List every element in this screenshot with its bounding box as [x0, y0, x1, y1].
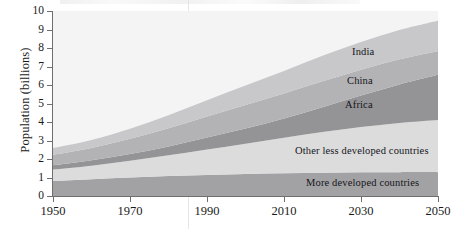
x-tick-label-text: 1950	[23, 204, 83, 218]
x-tick-label: 2030	[331, 204, 391, 218]
x-tick-mark	[207, 197, 208, 202]
population-stacked-area-chart: Population (billions) 012345678910 19501…	[0, 0, 453, 229]
y-tick-label: 6	[24, 79, 44, 90]
x-tick-mark	[53, 197, 54, 202]
y-tick-label-text: 0	[24, 190, 44, 201]
y-tick-mark	[47, 141, 52, 142]
y-tick-label-text: 7	[24, 61, 44, 72]
y-tick-label-text: 8	[24, 42, 44, 53]
plot-area	[53, 11, 438, 196]
x-tick-label: 1950	[23, 204, 83, 218]
y-tick-label-text: 6	[24, 79, 44, 90]
x-tick-label: 1990	[177, 204, 237, 218]
y-tick-label-text: 9	[24, 24, 44, 35]
series-label-africa: Africa	[345, 99, 373, 110]
y-tick-label: 1	[24, 172, 44, 183]
x-tick-mark	[284, 197, 285, 202]
y-tick-label-text: 10	[24, 5, 44, 16]
y-tick-label-text: 4	[24, 116, 44, 127]
x-tick-mark	[438, 197, 439, 202]
x-tick-mark	[130, 197, 131, 202]
y-tick-label: 8	[24, 42, 44, 53]
scan-bleed-artifact	[60, 0, 360, 4]
y-tick-mark	[47, 122, 52, 123]
y-tick-mark	[47, 178, 52, 179]
series-label-india: India	[352, 46, 374, 57]
y-tick-label: 4	[24, 116, 44, 127]
y-tick-mark	[47, 67, 52, 68]
x-tick-label-text: 1970	[100, 204, 160, 218]
y-tick-label-text: 1	[24, 172, 44, 183]
x-tick-label-text: 1990	[177, 204, 237, 218]
y-tick-label: 2	[24, 153, 44, 164]
y-tick-mark	[47, 30, 52, 31]
x-tick-label-text: 2030	[331, 204, 391, 218]
x-tick-label: 2010	[254, 204, 314, 218]
y-tick-label: 3	[24, 135, 44, 146]
y-tick-mark	[47, 11, 52, 12]
x-tick-mark	[361, 197, 362, 202]
y-tick-mark	[47, 48, 52, 49]
y-tick-mark	[47, 85, 52, 86]
y-tick-label: 5	[24, 98, 44, 109]
series-label-more-developed-countries: More developed countries	[306, 177, 419, 188]
y-tick-label: 10	[24, 5, 44, 16]
y-tick-label: 7	[24, 61, 44, 72]
x-tick-label: 2050	[408, 204, 453, 218]
stacked-area-series-group	[53, 11, 438, 196]
y-tick-label-text: 3	[24, 135, 44, 146]
y-tick-label-text: 5	[24, 98, 44, 109]
y-tick-mark	[47, 159, 52, 160]
y-tick-label: 0	[24, 190, 44, 201]
series-label-other-less-developed-countries: Other less developed countries	[295, 145, 429, 156]
y-tick-mark	[47, 104, 52, 105]
y-tick-label-text: 2	[24, 153, 44, 164]
series-label-china: China	[347, 75, 373, 86]
y-tick-mark	[47, 196, 52, 197]
y-tick-label: 9	[24, 24, 44, 35]
x-tick-label-text: 2050	[408, 204, 453, 218]
x-tick-label: 1970	[100, 204, 160, 218]
x-tick-label-text: 2010	[254, 204, 314, 218]
x-axis-line	[52, 196, 439, 197]
